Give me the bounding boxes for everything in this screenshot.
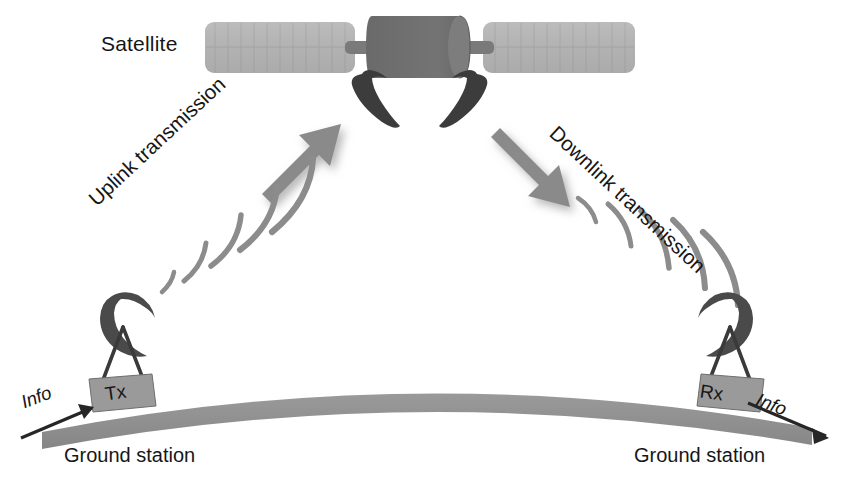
solar-panel-icon-right [483, 22, 635, 73]
satellite-dish-icon-right [439, 70, 487, 128]
satellite-dish-icon-left [352, 70, 400, 128]
ground-station-label-right: Ground station [634, 444, 765, 467]
tx-label: Tx [104, 381, 128, 406]
diagram-canvas [0, 0, 853, 491]
satellite-label: Satellite [101, 32, 178, 56]
earth-surface-icon [42, 393, 812, 449]
ground-station-label-left: Ground station [64, 444, 195, 467]
satellite-link-diagram: Satellite Uplink transmission Downlink t… [0, 0, 853, 491]
satellite-body-icon [366, 16, 470, 78]
rx-label: Rx [699, 380, 725, 405]
ground-dish-icon-right [698, 292, 753, 356]
solar-panel-icon-left [205, 22, 355, 73]
ground-dish-icon-left [100, 292, 155, 356]
